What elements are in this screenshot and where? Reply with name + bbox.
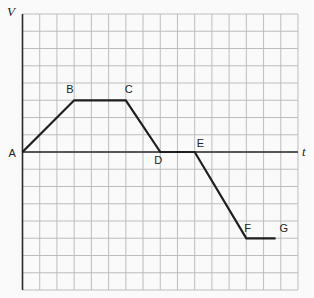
point-label-a: A: [9, 147, 17, 159]
point-label-f: F: [244, 222, 251, 234]
point-label-e: E: [197, 137, 204, 149]
x-axis-label: t: [302, 144, 306, 159]
point-label-c: C: [125, 83, 133, 95]
y-axis-label: V: [7, 4, 17, 19]
velocity-time-graph: ABCDEFG V t: [0, 0, 314, 298]
point-label-d: D: [154, 154, 162, 166]
point-label-b: B: [66, 83, 73, 95]
point-label-g: G: [280, 222, 289, 234]
